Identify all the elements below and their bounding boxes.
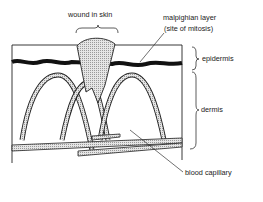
epidermis-label: epidermis <box>202 55 234 63</box>
malpighian-label-line2: (site of mitosis) <box>164 25 213 33</box>
malpighian-label-line1: malpighian layer <box>163 14 216 22</box>
wound <box>77 38 115 103</box>
epidermis-brace <box>192 47 199 70</box>
dermis-label: dermis <box>201 106 223 114</box>
wound-label: wound in skin <box>68 11 112 19</box>
capillary-label: blood capillary <box>185 169 232 177</box>
wound-brace <box>76 25 118 33</box>
horizontal-vessels <box>12 134 182 156</box>
malpighian-leader <box>140 33 164 62</box>
dermis-brace <box>190 72 199 149</box>
